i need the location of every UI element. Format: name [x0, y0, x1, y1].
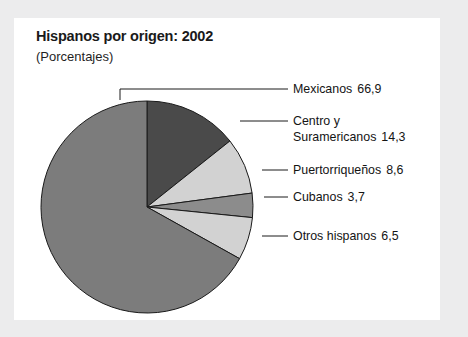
pie-label-otros-hispanos-value: 6,5 [381, 229, 398, 243]
pie-slice-group [41, 101, 253, 313]
pie-label-cubanos: Cubanos3,7 [293, 190, 365, 206]
pie-label-centro-suramericanos-line1: Centro y [293, 114, 405, 130]
pie-label-otros-hispanos: Otros hispanos6,5 [293, 229, 399, 245]
pie-label-mexicanos-text: Mexicanos [293, 82, 352, 96]
leader-line-mexicanos [120, 89, 288, 100]
pie-label-mexicanos-value: 66,9 [357, 82, 381, 96]
pie-label-centro-suramericanos-value: 14,3 [381, 130, 405, 144]
pie-label-centro-suramericanos: Centro y Suramericanos14,3 [293, 114, 405, 145]
pie-label-puertorriquenos-text: Puertorriqueños [293, 163, 381, 177]
chart-card: Hispanos por origen: 2002 (Porcentajes) … [14, 18, 440, 320]
pie-label-centro-suramericanos-line2-wrap: Suramericanos14,3 [293, 130, 405, 146]
pie-label-mexicanos: Mexicanos66,9 [293, 82, 381, 98]
pie-label-otros-hispanos-text: Otros hispanos [293, 229, 376, 243]
pie-label-puertorriquenos-value: 8,6 [386, 163, 403, 177]
pie-label-cubanos-text: Cubanos [293, 190, 343, 204]
pie-label-puertorriquenos: Puertorriqueños8,6 [293, 163, 403, 179]
pie-label-cubanos-value: 3,7 [348, 190, 365, 204]
pie-label-centro-suramericanos-line2: Suramericanos [293, 130, 376, 144]
